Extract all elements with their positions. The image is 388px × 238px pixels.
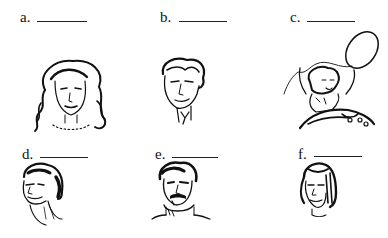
- item-label: b.: [160, 10, 171, 25]
- woman-straight-hair-illustration: [298, 163, 338, 221]
- item-label: d.: [22, 147, 33, 162]
- answer-blank[interactable]: [37, 21, 87, 22]
- item-label: f.: [298, 147, 307, 162]
- item-label: e.: [155, 147, 165, 162]
- answer-blank[interactable]: [40, 157, 88, 158]
- man-wavy-hair-illustration: [155, 58, 215, 123]
- answer-blank[interactable]: [307, 21, 355, 22]
- answer-blank[interactable]: [314, 156, 362, 157]
- item-label: c.: [290, 10, 300, 25]
- answer-blank[interactable]: [179, 21, 227, 22]
- man-square-jaw-illustration: [20, 163, 65, 228]
- man-mustache-turtleneck-illustration: [152, 163, 212, 223]
- answer-blank[interactable]: [172, 157, 218, 158]
- woman-curly-hair-illustration: [15, 55, 125, 135]
- girl-with-balloon-illustration: [280, 28, 388, 133]
- item-label: a.: [20, 10, 30, 25]
